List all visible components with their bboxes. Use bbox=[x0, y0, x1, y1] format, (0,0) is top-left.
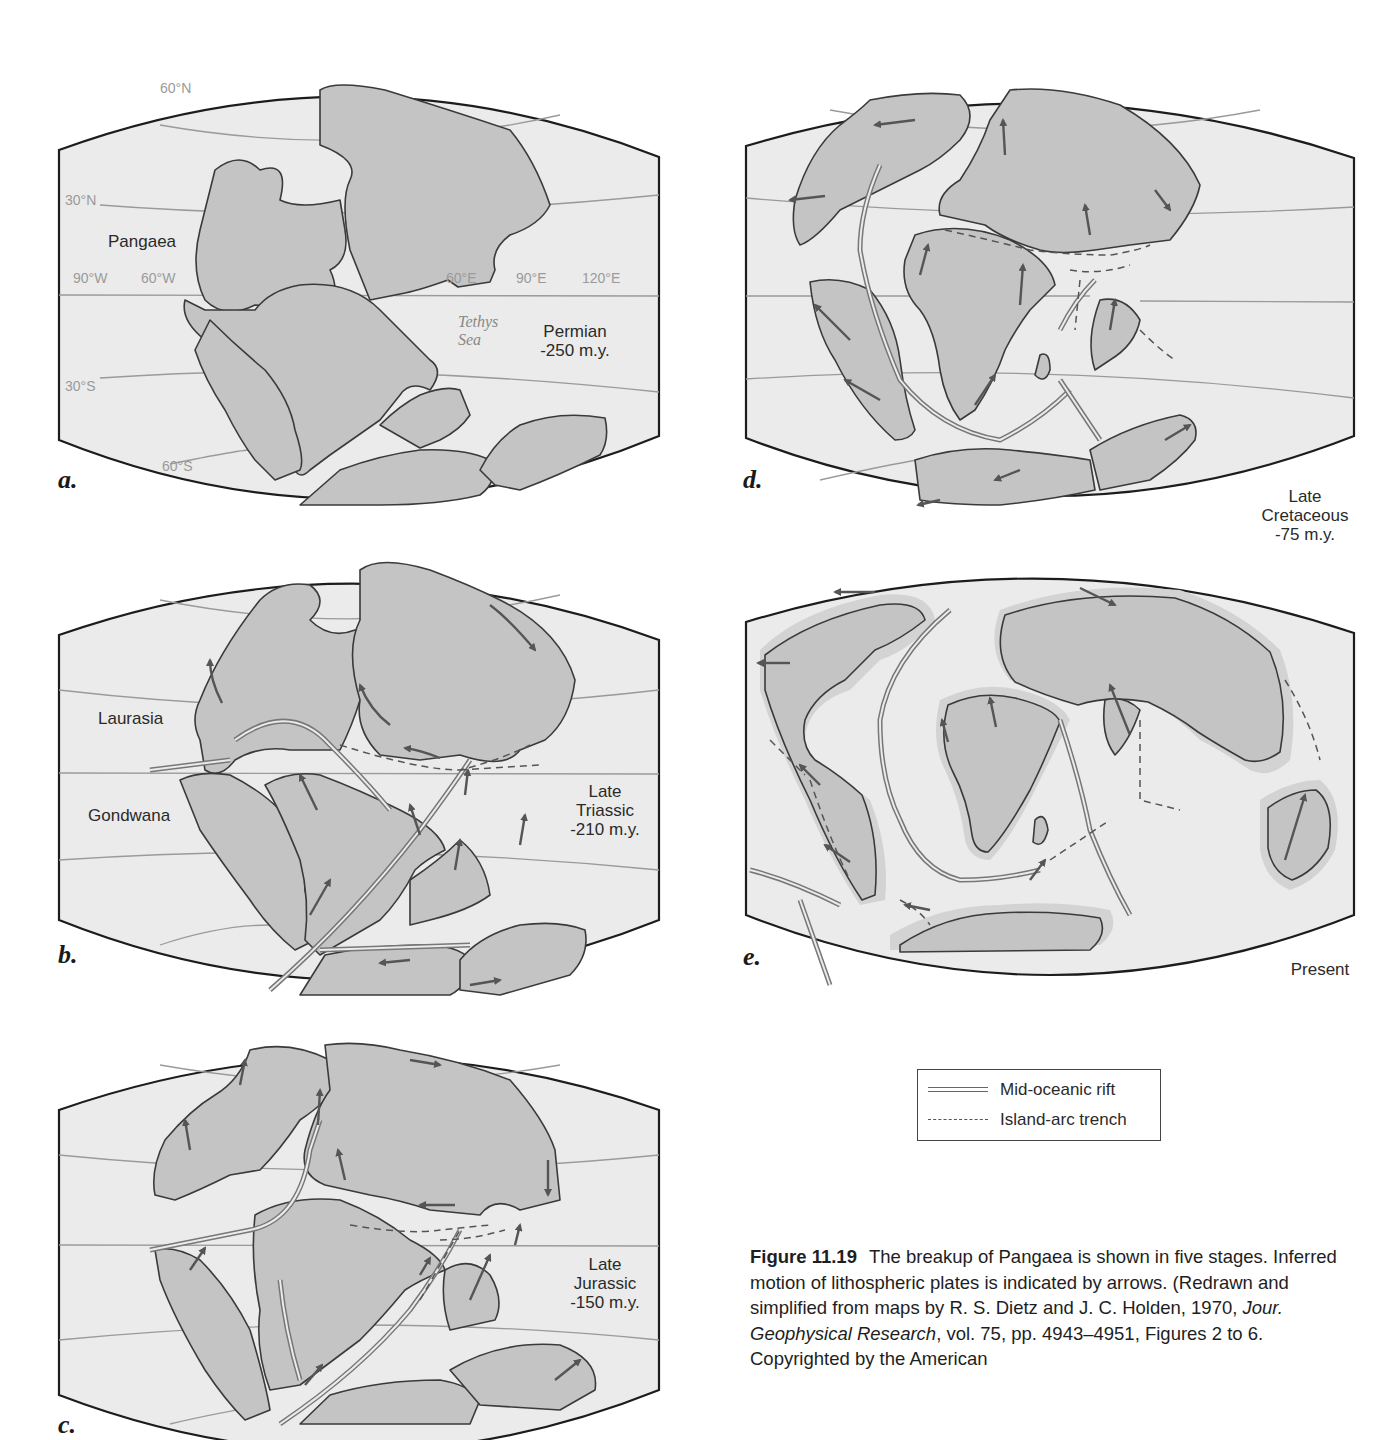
map-e-graphic bbox=[0, 0, 1392, 1000]
legend-label-trench: Island-arc trench bbox=[1000, 1110, 1127, 1130]
panel-letter-c: c. bbox=[58, 1410, 76, 1440]
double-line-icon bbox=[928, 1085, 988, 1095]
figure-number: Figure 11.19 bbox=[750, 1246, 857, 1267]
legend-label-rift: Mid-oceanic rift bbox=[1000, 1080, 1115, 1100]
dashed-line-icon bbox=[928, 1115, 988, 1125]
stage-name-1: Late bbox=[555, 1255, 655, 1274]
legend-item-trench: Island-arc trench bbox=[928, 1108, 1127, 1132]
stage-name-2: Jurassic bbox=[555, 1274, 655, 1293]
legend-item-rift: Mid-oceanic rift bbox=[928, 1078, 1115, 1102]
stage-label-e: Present bbox=[1280, 960, 1360, 979]
figure-caption: Figure 11.19The breakup of Pangaea is sh… bbox=[750, 1244, 1350, 1372]
stage-age: -150 m.y. bbox=[555, 1293, 655, 1312]
stage-name: Present bbox=[1280, 960, 1360, 979]
stage-label-c: Late Jurassic -150 m.y. bbox=[555, 1255, 655, 1312]
map-legend: Mid-oceanic rift Island-arc trench bbox=[917, 1069, 1161, 1141]
panel-letter-e: e. bbox=[743, 942, 761, 972]
